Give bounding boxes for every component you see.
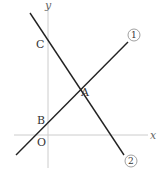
line-1 — [16, 42, 128, 155]
point-a-label: A — [80, 86, 90, 99]
origin-label: O — [37, 136, 46, 149]
point-c-label: C — [36, 38, 44, 51]
line-2-label: 2 — [128, 156, 134, 166]
x-axis-label: x — [150, 129, 157, 142]
y-axis-label: y — [44, 0, 52, 12]
coordinate-diagram: x y O 1 2 C B A — [0, 0, 158, 175]
point-b-label: B — [37, 114, 45, 127]
line-1-label: 1 — [131, 30, 137, 40]
line-2 — [30, 13, 124, 155]
